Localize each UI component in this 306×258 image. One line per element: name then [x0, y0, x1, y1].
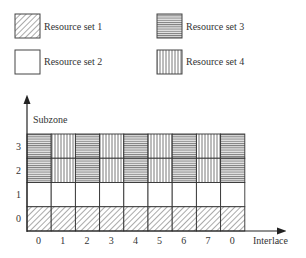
legend-item-resource-set-1: Resource set 1 — [15, 14, 102, 38]
legend-label: Resource set 3 — [186, 21, 244, 32]
y-tick-label: 1 — [16, 189, 21, 200]
grid-cell-vertical — [148, 134, 172, 158]
grid-cell-blank — [172, 183, 196, 207]
x-tick-label: 0 — [230, 235, 235, 246]
x-tick-label: 4 — [133, 235, 138, 246]
x-tick-label: 3 — [109, 235, 114, 246]
grid-cell-horizontal — [221, 134, 245, 158]
grid-cell-horizontal — [27, 158, 51, 182]
grid-cell-vertical — [196, 158, 220, 182]
grid-cell-diagonal — [196, 207, 220, 231]
legend-label: Resource set 1 — [44, 21, 102, 32]
grid-cell-diagonal — [75, 207, 99, 231]
grid-cell-blank — [124, 183, 148, 207]
grid-cell-horizontal — [221, 158, 245, 182]
x-axis-label: Interlace — [253, 235, 289, 246]
grid-cell-diagonal — [51, 207, 75, 231]
grid-cell-vertical — [100, 134, 124, 158]
legend-item-resource-set-3: Resource set 3 — [157, 14, 244, 38]
grid-cell-diagonal — [100, 207, 124, 231]
legend-label: Resource set 2 — [44, 56, 102, 67]
legend-item-resource-set-2: Resource set 2 — [15, 50, 102, 74]
grid-cell-vertical — [100, 158, 124, 182]
diagram: Resource set 1 Resource set 2 Resource s… — [0, 0, 306, 258]
grid-cell-vertical — [51, 134, 75, 158]
y-tick-labels: 0123 — [16, 141, 21, 225]
y-axis-label: Subzone — [33, 114, 68, 125]
x-tick-label: 1 — [60, 235, 65, 246]
grid-cell-blank — [27, 183, 51, 207]
x-tick-label: 5 — [157, 235, 162, 246]
grid-cell-diagonal — [221, 207, 245, 231]
grid-cell-horizontal — [172, 134, 196, 158]
grid-cell-blank — [221, 183, 245, 207]
x-tick-label: 6 — [181, 235, 186, 246]
y-tick-label: 2 — [16, 165, 21, 176]
grid-cell-vertical — [148, 158, 172, 182]
grid-cell-diagonal — [27, 207, 51, 231]
legend: Resource set 1 Resource set 2 Resource s… — [15, 14, 244, 74]
x-tick-labels: 012345670 — [36, 235, 235, 246]
y-tick-label: 3 — [16, 141, 21, 152]
resource-grid — [27, 134, 245, 231]
grid-cell-blank — [51, 183, 75, 207]
grid-cell-diagonal — [148, 207, 172, 231]
grid-cell-blank — [196, 183, 220, 207]
y-tick-label: 0 — [16, 213, 21, 224]
grid-cell-horizontal — [75, 158, 99, 182]
x-tick-label: 2 — [85, 235, 90, 246]
legend-label: Resource set 4 — [186, 56, 244, 67]
grid-cell-horizontal — [27, 134, 51, 158]
grid-cell-diagonal — [124, 207, 148, 231]
grid-cell-blank — [75, 183, 99, 207]
grid-cell-blank — [100, 183, 124, 207]
grid-cell-horizontal — [172, 158, 196, 182]
grid-cell-horizontal — [75, 134, 99, 158]
grid-cell-vertical — [51, 158, 75, 182]
x-tick-label: 0 — [36, 235, 41, 246]
grid-cell-horizontal — [124, 158, 148, 182]
x-tick-label: 7 — [206, 235, 211, 246]
grid-cell-vertical — [196, 134, 220, 158]
grid-cell-horizontal — [124, 134, 148, 158]
grid-cell-blank — [148, 183, 172, 207]
legend-item-resource-set-4: Resource set 4 — [157, 50, 244, 74]
grid-cell-diagonal — [172, 207, 196, 231]
